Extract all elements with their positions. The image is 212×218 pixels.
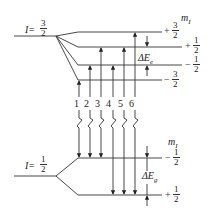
delta-e-ground-sub: g bbox=[154, 176, 158, 184]
transition-label-5: 5 bbox=[118, 99, 123, 109]
upper-level-plus-1-2 bbox=[56, 36, 182, 47]
transition-3-wave bbox=[99, 110, 104, 134]
transition-label-2: 2 bbox=[84, 99, 89, 109]
upper-level-2-sign: − bbox=[185, 59, 191, 70]
transition-label-6: 6 bbox=[129, 99, 134, 109]
transition-label-4: 4 bbox=[106, 99, 111, 109]
transition-5-wave bbox=[122, 110, 127, 134]
delta-e-excited-sub: e bbox=[150, 58, 153, 66]
transition-1-wave bbox=[77, 110, 82, 134]
upper-m-sub: I bbox=[188, 18, 190, 26]
upper-level-0-frac: 3 2 bbox=[172, 21, 179, 40]
delta-e-excited-text: ΔE bbox=[138, 52, 150, 63]
upper-m-label: mI bbox=[181, 13, 191, 26]
upper-spin-fraction: 3 2 bbox=[40, 19, 47, 38]
upper-spin-den: 2 bbox=[41, 29, 46, 38]
transition-6-wave bbox=[133, 110, 138, 134]
transition-2-wave bbox=[88, 110, 93, 134]
upper-level-2-frac: 1 2 bbox=[193, 55, 200, 74]
lower-spin-label: I= bbox=[25, 161, 35, 171]
lower-level-0-sign: − bbox=[165, 152, 171, 163]
delta-e-ground-text: ΔE bbox=[142, 170, 154, 181]
delta-e-excited-label: ΔEe bbox=[138, 53, 153, 66]
upper-level-0-den: 2 bbox=[173, 31, 178, 40]
lower-spin-fraction: 1 2 bbox=[40, 155, 47, 174]
upper-level-3-frac: 3 2 bbox=[172, 70, 179, 89]
lower-spin-den: 2 bbox=[41, 165, 46, 174]
upper-level-0-sign: + bbox=[164, 25, 170, 36]
upper-level-3-den: 2 bbox=[173, 80, 178, 89]
upper-level-2-den: 2 bbox=[194, 65, 199, 74]
lower-level-1-frac: 1 2 bbox=[173, 185, 180, 204]
transition-4-wave bbox=[111, 110, 116, 134]
lower-level-1-sign: + bbox=[165, 189, 171, 200]
delta-e-ground-label: ΔEg bbox=[142, 171, 157, 184]
upper-level-minus-1-2 bbox=[56, 36, 182, 65]
lower-level-0-frac: 1 2 bbox=[173, 148, 180, 167]
transition-label-3: 3 bbox=[95, 99, 100, 109]
transition-label-1: 1 bbox=[74, 99, 79, 109]
lower-level-1-den: 2 bbox=[174, 195, 179, 204]
lower-level-0-den: 2 bbox=[174, 158, 179, 167]
upper-level-plus-3-2 bbox=[56, 32, 162, 36]
upper-level-3-sign: − bbox=[164, 74, 170, 85]
upper-level-1-frac: 1 2 bbox=[193, 36, 200, 55]
upper-level-1-sign: + bbox=[185, 40, 191, 51]
upper-spin-label: I= bbox=[25, 25, 35, 35]
